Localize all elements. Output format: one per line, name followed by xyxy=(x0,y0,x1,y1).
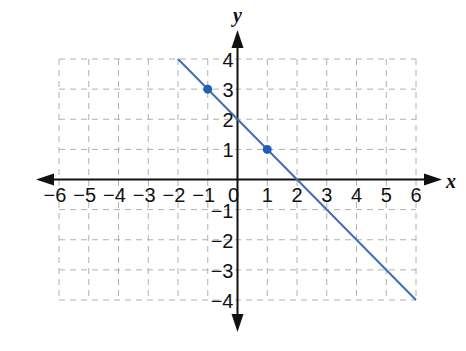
y-tick-label: −1 xyxy=(211,200,234,222)
x-axis-label: x xyxy=(445,170,456,192)
y-axis-label: y xyxy=(231,4,242,27)
y-tick-label: −2 xyxy=(211,230,234,252)
y-axis-up-arrow-icon xyxy=(232,30,244,48)
y-tick-label: 1 xyxy=(222,139,233,161)
x-tick-label: −3 xyxy=(133,184,156,206)
y-tick-label: −3 xyxy=(211,260,234,282)
x-tick-label: 1 xyxy=(262,184,273,206)
axes xyxy=(36,30,442,332)
x-tick-label: −4 xyxy=(103,184,126,206)
x-tick-label: 6 xyxy=(410,184,421,206)
x-axis-right-arrow-icon xyxy=(424,174,442,186)
x-tick-label: 4 xyxy=(351,184,362,206)
y-tick-label: 2 xyxy=(222,109,233,131)
coordinate-plane: −6−5−4−3−2−10123456 −4−3−2−11234 x y xyxy=(0,0,466,351)
x-tick-label: −6 xyxy=(44,184,67,206)
x-tick-label: −2 xyxy=(163,184,186,206)
y-tick-label: 3 xyxy=(222,79,233,101)
y-tick-label: −4 xyxy=(211,290,234,312)
y-axis-down-arrow-icon xyxy=(232,314,244,332)
y-tick-label: 4 xyxy=(222,49,233,71)
x-tick-label: 2 xyxy=(291,184,302,206)
x-tick-label: 3 xyxy=(321,184,332,206)
x-tick-label: 5 xyxy=(381,184,392,206)
x-tick-label: −5 xyxy=(73,184,96,206)
data-point xyxy=(203,85,212,94)
data-point xyxy=(263,145,272,154)
